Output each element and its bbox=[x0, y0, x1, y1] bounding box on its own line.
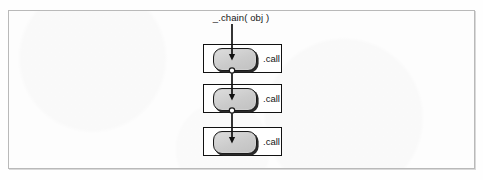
call-shape-icon bbox=[213, 131, 257, 154]
figure-root: _.chain( obj ) .call .call .call bbox=[0, 0, 483, 180]
call-unit-2: .call bbox=[203, 84, 282, 113]
call-shape-icon bbox=[213, 48, 257, 71]
call-shape-icon bbox=[213, 88, 257, 111]
call-unit-3: .call bbox=[203, 127, 282, 156]
entry-label: _.chain( obj ) bbox=[196, 12, 286, 23]
call-unit-1: .call bbox=[203, 44, 282, 73]
call-unit-1-label: .call bbox=[263, 53, 280, 64]
call-unit-3-label: .call bbox=[263, 136, 280, 147]
call-unit-2-label: .call bbox=[263, 93, 280, 104]
